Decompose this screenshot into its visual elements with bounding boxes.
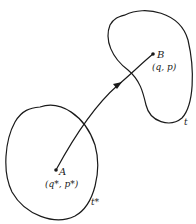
point-b-label: B <box>156 49 164 60</box>
point-a-label: A <box>58 166 66 177</box>
point-b-coords: (q, p) <box>152 62 177 72</box>
point-a-coords: (q*, p*) <box>45 179 79 189</box>
phase-space-diagram: A (q*, p*) B (q, p) t* t <box>0 0 196 224</box>
final-region-curve <box>108 11 192 123</box>
initial-region-label: t* <box>91 197 100 207</box>
final-region-label: t <box>184 117 188 127</box>
point-b-dot <box>151 52 155 56</box>
point-a-dot <box>54 168 58 172</box>
initial-region-curve <box>6 105 98 219</box>
